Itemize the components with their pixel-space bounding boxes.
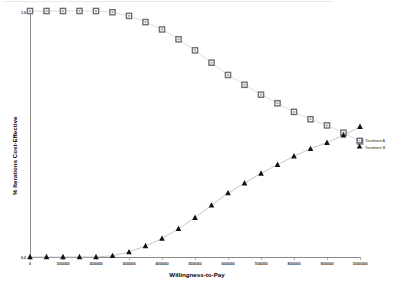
legend-marker-square-inner bbox=[359, 140, 360, 141]
x-tick-label: 8000000 bbox=[287, 262, 300, 266]
data-point-treatment-a-core bbox=[29, 10, 31, 12]
x-tick-label: 4000000 bbox=[155, 262, 168, 266]
x-tick-label: 5000000 bbox=[188, 262, 201, 266]
data-point-treatment-a-core bbox=[79, 10, 81, 12]
x-tick-label: 9000000 bbox=[320, 262, 333, 266]
data-point-treatment-a-core bbox=[145, 21, 147, 23]
x-tick-label: 7000000 bbox=[254, 262, 267, 266]
data-point-treatment-a-core bbox=[244, 84, 246, 86]
y-axis-title: % Iterations Cost-Effective bbox=[11, 116, 18, 195]
ceac-plot: % Iterations Cost-Effective 1.0 0.0 0 10… bbox=[0, 0, 397, 286]
data-point-treatment-a-core bbox=[95, 10, 97, 12]
data-point-treatment-a-core bbox=[161, 29, 163, 31]
data-point-treatment-a-core bbox=[178, 38, 180, 40]
x-tick-label: 1000000 bbox=[56, 262, 69, 266]
x-tick-label: 10000000 bbox=[352, 262, 367, 266]
data-point-treatment-b bbox=[159, 235, 165, 240]
data-point-treatment-a-core bbox=[112, 11, 114, 13]
data-point-treatment-b bbox=[209, 202, 215, 207]
y-tick-label-top: 1.0 bbox=[21, 11, 26, 15]
data-point-treatment-b bbox=[242, 180, 248, 185]
chart-figure: % Iterations Cost-Effective 1.0 0.0 0 10… bbox=[0, 0, 397, 286]
x-tick-label: 2000000 bbox=[89, 262, 102, 266]
y-tick-label-bottom: 0.0 bbox=[21, 256, 26, 260]
data-point-treatment-a-core bbox=[326, 124, 328, 126]
x-tick-label: 0 bbox=[29, 262, 31, 266]
data-point-treatment-b bbox=[275, 162, 281, 167]
data-point-treatment-a-core bbox=[128, 15, 130, 17]
data-point-treatment-b bbox=[225, 190, 231, 195]
x-axis-title: Willingness-to-Pay bbox=[169, 271, 225, 278]
series-markers bbox=[27, 8, 363, 259]
data-point-treatment-a-core bbox=[277, 102, 279, 104]
data-point-treatment-a-core bbox=[46, 10, 48, 12]
data-point-treatment-a-core bbox=[211, 62, 213, 64]
x-tick-label: 6000000 bbox=[221, 262, 234, 266]
data-point-treatment-a-core bbox=[227, 74, 229, 76]
data-point-treatment-a-core bbox=[194, 49, 196, 51]
data-point-treatment-a-core bbox=[62, 10, 64, 12]
x-tick-label: 3000000 bbox=[122, 262, 135, 266]
data-point-treatment-a-core bbox=[293, 111, 295, 113]
legend-label-treatment-a: Treatment A bbox=[365, 139, 385, 143]
data-point-treatment-a-core bbox=[260, 94, 262, 96]
legend-label-treatment-b: Treatment B bbox=[365, 146, 386, 150]
data-point-treatment-b bbox=[176, 226, 182, 231]
data-point-treatment-b bbox=[258, 170, 264, 175]
data-point-treatment-b bbox=[192, 215, 198, 220]
data-point-treatment-b bbox=[357, 123, 363, 128]
data-point-treatment-a-core bbox=[310, 118, 312, 120]
